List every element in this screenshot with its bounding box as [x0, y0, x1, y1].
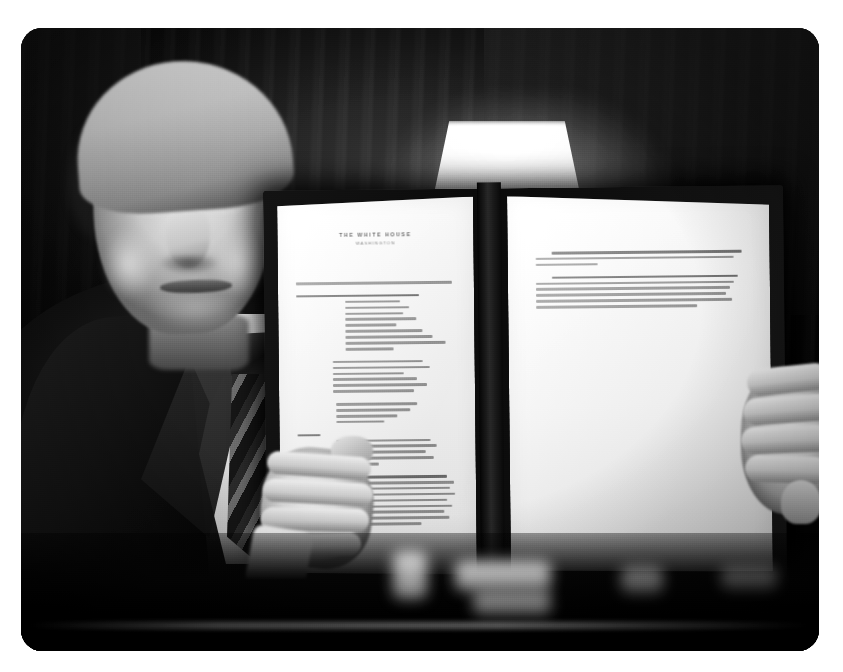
letterhead-title: THE WHITE HOUSE — [277, 231, 473, 239]
desk-object-2 — [455, 561, 551, 591]
nose-shadow — [160, 256, 218, 274]
letterhead-subtitle: WASHINGTON — [277, 240, 473, 247]
hand-right-finger-2 — [742, 393, 819, 426]
letterhead: THE WHITE HOUSE WASHINGTON — [277, 231, 473, 247]
hand-right-finger-4 — [745, 455, 819, 485]
chin-shadow — [149, 296, 241, 330]
desk-object-1 — [393, 551, 427, 599]
folder-spine — [477, 182, 505, 586]
hand-right-finger-3 — [741, 424, 819, 454]
desk-object-5 — [721, 567, 777, 589]
desk-object-3 — [473, 591, 551, 615]
desk-edge — [21, 622, 819, 629]
desk-foreground — [21, 533, 819, 651]
hand-right — [721, 358, 819, 528]
cheek-left — [103, 228, 155, 298]
typed-text-right — [536, 250, 743, 312]
hand-right-thumb — [781, 480, 819, 524]
image-canvas: THE WHITE HOUSE WASHINGTON — [0, 0, 843, 672]
photograph: THE WHITE HOUSE WASHINGTON — [21, 28, 819, 651]
desk-object-4 — [621, 567, 663, 593]
